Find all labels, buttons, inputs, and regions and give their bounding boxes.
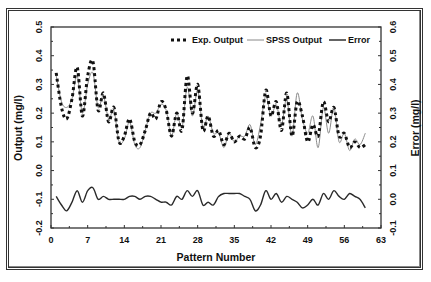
x-tick-label: 14: [119, 235, 129, 245]
y2-tick-label: -0.1: [388, 220, 398, 236]
y2-tick-label: 0.0: [388, 193, 398, 206]
y-tick-label: -0.2: [34, 220, 44, 236]
y-axis-title: Output (mg/l): [12, 95, 24, 161]
y-tick-label: 0.2: [34, 107, 44, 120]
x-tick-label: 56: [339, 235, 349, 245]
legend-label-spss-output: SPSS Output: [266, 35, 322, 45]
y-tick-label: 0.1: [34, 136, 44, 149]
x-tick-label: 63: [376, 235, 386, 245]
y2-tick-label: 0.2: [388, 136, 398, 149]
legend-label-error: Error: [348, 35, 371, 45]
x-tick-label: 28: [193, 235, 203, 245]
y-tick-label: 0.4: [34, 49, 44, 62]
x-tick-label: 0: [48, 235, 53, 245]
y2-axis-title: Error (mg/l): [409, 99, 421, 156]
y2-tick-label: 0.6: [388, 21, 398, 34]
y2-tick-label: 0.4: [388, 78, 398, 91]
x-tick-label: 49: [303, 235, 313, 245]
x-tick-label: 7: [85, 235, 90, 245]
x-axis-title: Pattern Number: [177, 251, 256, 263]
y2-tick-label: 0.5: [388, 49, 398, 62]
y-tick-label: 0.0: [34, 164, 44, 177]
y2-tick-label: 0.1: [388, 164, 398, 177]
y-tick-label: -0.1: [34, 192, 44, 208]
y-tick-label: 0.5: [34, 21, 44, 34]
y-tick-label: 0.3: [34, 78, 44, 91]
x-tick-label: 21: [156, 235, 166, 245]
legend-label-exp-output: Exp. Output: [192, 35, 243, 45]
chart: 071421283542495663 -0.2-0.10.00.10.20.30…: [0, 0, 431, 282]
x-tick-label: 35: [229, 235, 239, 245]
x-tick-label: 42: [266, 235, 276, 245]
y2-tick-label: 0.3: [388, 107, 398, 120]
